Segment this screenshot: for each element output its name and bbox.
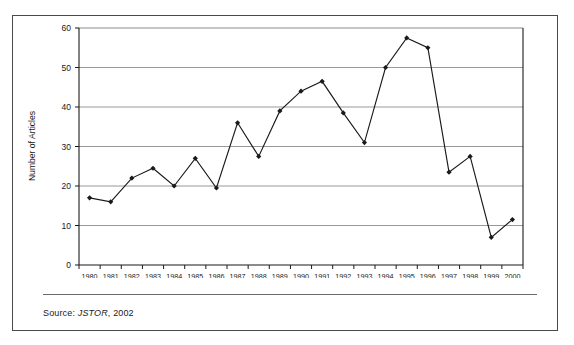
data-point-marker <box>87 195 92 200</box>
x-tick-label-1999: 1999 <box>483 272 499 278</box>
x-tick-label-1988: 1988 <box>251 272 267 278</box>
x-tick-label-1993: 1993 <box>356 272 372 278</box>
x-tick-label-1985: 1985 <box>187 272 203 278</box>
y-tick-label: 30 <box>62 142 72 152</box>
y-tick-marks-group <box>75 28 79 265</box>
source-year: , 2002 <box>108 308 134 318</box>
y-tick-label: 40 <box>62 102 72 112</box>
x-tick-label-1995: 1995 <box>399 272 415 278</box>
y-tick-labels-group: 0102030405060 <box>62 23 72 270</box>
source-label: Source: <box>43 308 75 318</box>
source-database-name: JSTOR <box>78 308 108 318</box>
y-tick-label: 10 <box>62 221 72 231</box>
x-tick-label-1981: 1981 <box>103 272 119 278</box>
source-note: Source: JSTOR, 2002 <box>43 308 134 318</box>
x-tick-label-1998: 1998 <box>462 272 478 278</box>
x-tick-label-1994: 1994 <box>378 272 394 278</box>
x-tick-label-1984: 1984 <box>166 272 182 278</box>
x-tick-label-1983: 1983 <box>145 272 161 278</box>
x-tick-label-1996: 1996 <box>420 272 436 278</box>
chart-plot-region: 0102030405060 19801981198219831984198519… <box>13 16 559 278</box>
x-tick-label-1982: 1982 <box>124 272 140 278</box>
x-tick-label-1989: 1989 <box>272 272 288 278</box>
x-tick-label-1992: 1992 <box>335 272 351 278</box>
line-chart: 0102030405060 19801981198219831984198519… <box>13 16 559 278</box>
data-point-markers-group <box>87 35 515 240</box>
x-tick-marks-group <box>79 265 523 269</box>
gridlines-group <box>79 28 523 226</box>
data-point-marker <box>425 45 430 50</box>
y-tick-label: 0 <box>66 260 71 270</box>
x-tick-label-2000: 2000 <box>504 272 520 278</box>
y-tick-label: 60 <box>62 23 72 33</box>
x-tick-label-1980: 1980 <box>82 272 98 278</box>
figure-frame: 0102030405060 19801981198219831984198519… <box>12 15 558 331</box>
x-tick-label-1990: 1990 <box>293 272 309 278</box>
x-tick-label-1991: 1991 <box>314 272 330 278</box>
x-tick-label-1987: 1987 <box>230 272 246 278</box>
y-tick-label: 50 <box>62 63 72 73</box>
y-tick-label: 20 <box>62 181 72 191</box>
x-tick-labels-group: 1980198119821983198419851986198719881989… <box>82 272 521 278</box>
y-axis-title: Number of Articles <box>27 111 37 181</box>
x-tick-label-1986: 1986 <box>208 272 224 278</box>
x-tick-label-1997: 1997 <box>441 272 457 278</box>
source-separator-rule <box>43 294 537 295</box>
